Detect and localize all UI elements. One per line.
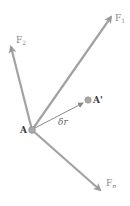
label-displacement: δr [58,118,68,127]
point-a-prime [85,97,91,103]
force-fn-arrow [32,130,100,190]
force-f2-arrow [11,47,32,130]
label-f1: F1 [115,14,125,24]
diagram-svg [0,0,130,206]
label-point-a: A [20,126,27,135]
label-fn: Fn [106,179,116,189]
virtual-displacement-diagram: F1 F2 Fn A A' δr [0,0,130,206]
force-f1-arrow [32,17,111,130]
label-f2: F2 [16,36,26,46]
label-point-a-prime: A' [93,96,103,105]
point-a [29,127,36,134]
